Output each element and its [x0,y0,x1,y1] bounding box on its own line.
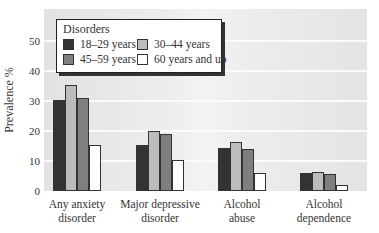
bar [53,100,65,192]
x-tick-label: Alcoholabuse [197,197,287,225]
bar [218,148,230,192]
legend-title: Disorders [63,22,215,37]
x-tick-label: Major depressivedisorder [115,197,205,225]
y-tick-label: 10 [0,155,40,167]
legend-label: 30–44 years [154,38,210,50]
y-tick-label: 0 [0,185,40,197]
bar [65,85,77,192]
y-tick-label: 50 [0,35,40,47]
legend-item-60-up: 60 years and up [137,53,219,65]
legend-label: 60 years and up [154,53,227,65]
x-tick-label: Alcoholdependence [279,197,369,225]
bar [300,173,312,191]
legend: Disorders 18–29 years 30–44 years 45–59 … [56,19,222,73]
bar [136,145,148,192]
legend-swatch-icon [137,54,148,65]
legend-swatch-icon [137,39,148,50]
legend-swatch-icon [63,54,74,65]
bar [324,174,336,191]
bar [312,172,324,191]
legend-label: 18–29 years [80,38,136,50]
bar [336,185,348,191]
y-axis-label: Prevalence % [2,67,17,133]
bar [77,98,89,191]
bar [254,173,266,191]
gridline [44,130,367,132]
x-tick-label: Any anxietydisorder [32,197,122,225]
bar [148,131,160,191]
bar [230,142,242,192]
bar [172,160,184,192]
legend-item-18-29: 18–29 years [63,38,137,50]
legend-item-45-59: 45–59 years [63,53,137,65]
legend-label: 45–59 years [80,53,136,65]
legend-swatch-icon [63,39,74,50]
gridline [44,100,367,102]
bar [160,134,172,191]
bar [89,145,101,191]
legend-item-30-44: 30–44 years [137,38,219,50]
bar [242,149,254,191]
